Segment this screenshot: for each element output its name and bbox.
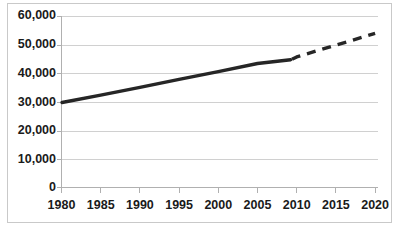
x-tick-label-2005: 2005 xyxy=(236,199,280,212)
y-tick-label-10000: 10,000 xyxy=(0,153,56,166)
x-tick-label-2010: 2010 xyxy=(275,199,319,212)
x-tick-marks xyxy=(62,188,376,193)
series-actual-line xyxy=(62,60,291,103)
y-tick-label-20000: 20,000 xyxy=(0,124,56,137)
x-tick-label-1980: 1980 xyxy=(40,199,84,212)
x-tick-label-1995: 1995 xyxy=(157,199,201,212)
line-chart: 60,000 50,000 40,000 30,000 20,000 10,00… xyxy=(0,0,400,230)
gridlines xyxy=(61,17,378,160)
y-tick-label-30000: 30,000 xyxy=(0,96,56,109)
x-tick-label-2020: 2020 xyxy=(353,199,397,212)
y-tick-label-50000: 50,000 xyxy=(0,38,56,51)
x-tick-label-1985: 1985 xyxy=(79,199,123,212)
series-projected-line xyxy=(292,33,375,59)
x-tick-label-1990: 1990 xyxy=(118,199,162,212)
x-tick-label-2000: 2000 xyxy=(196,199,240,212)
plot-area xyxy=(0,0,400,230)
y-tick-label-0: 0 xyxy=(0,181,56,194)
y-tick-label-60000: 60,000 xyxy=(0,9,56,22)
y-tick-label-40000: 40,000 xyxy=(0,67,56,80)
x-tick-label-2015: 2015 xyxy=(314,199,358,212)
